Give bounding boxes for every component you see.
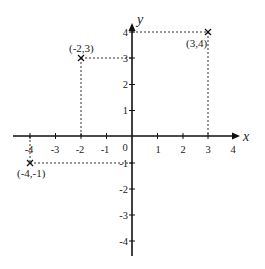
y-tick-label: -2 [119,184,128,195]
point-label: (-2,3) [69,42,94,55]
y-tick-label: 4 [123,27,129,38]
y-axis-label: y [135,12,144,27]
y-tick-label: -1 [119,158,128,169]
y-tick-labels: 4 3 2 1 -1 -2 -3 -4 [119,27,129,247]
x-tick-label: 3 [205,144,210,155]
point-label: (3,4) [186,37,207,50]
x-tick-label: 4 [230,144,236,155]
coordinate-plane: x y -4 -3 -2 -1 1 2 3 4 0 [0,0,265,269]
x-tick-label: -4 [25,144,34,155]
point-label: (-4,-1) [17,167,46,180]
cross-marker-icon [78,55,84,61]
x-tick-label: -3 [51,144,60,155]
y-tick-label: 1 [123,105,128,116]
origin-label: 0 [122,142,127,153]
point-labels: (-2,3) (3,4) (-4,-1) [17,37,207,180]
x-tick-labels: -4 -3 -2 -1 1 2 3 4 0 [25,142,237,155]
y-tick-label: -3 [119,210,128,221]
y-tick-label: -4 [119,236,128,247]
y-tick-label: 3 [123,53,128,64]
x-tick-label: 1 [155,144,160,155]
x-tick-label: -2 [76,144,85,155]
x-axis-label: x [242,129,250,144]
x-tick-label: 2 [180,144,185,155]
y-axis-arrow-icon [129,23,136,31]
y-axis: y [129,12,145,256]
x-tick-label: -1 [101,144,110,155]
y-tick-label: 2 [123,79,128,90]
